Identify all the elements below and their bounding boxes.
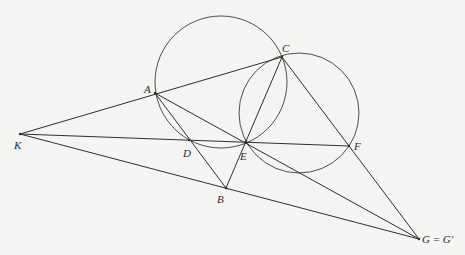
circle-CEF: [239, 53, 359, 173]
segment-AB: [155, 93, 226, 188]
point-D: [188, 139, 190, 141]
label-B: B: [217, 193, 224, 205]
segment-KC: [20, 57, 282, 134]
segment-KF: [20, 134, 349, 146]
point-C: [281, 56, 283, 58]
label-C: C: [282, 42, 290, 54]
point-F: [348, 145, 350, 147]
segment-CG: [282, 57, 419, 239]
label-E: E: [239, 150, 247, 162]
point-K: [19, 133, 21, 135]
point-G: [418, 238, 420, 240]
label-D: D: [182, 147, 191, 159]
label-G: G = G′: [422, 233, 454, 245]
label-F: F: [353, 140, 361, 152]
label-K: K: [13, 139, 22, 151]
point-B: [225, 187, 227, 189]
segment-AG: [155, 93, 419, 239]
label-A: A: [143, 83, 151, 95]
point-E: [245, 141, 247, 143]
point-A: [154, 92, 156, 94]
geometry-diagram: A C K D E F B G = G′: [0, 0, 465, 255]
circle-ACDE: [155, 16, 287, 148]
